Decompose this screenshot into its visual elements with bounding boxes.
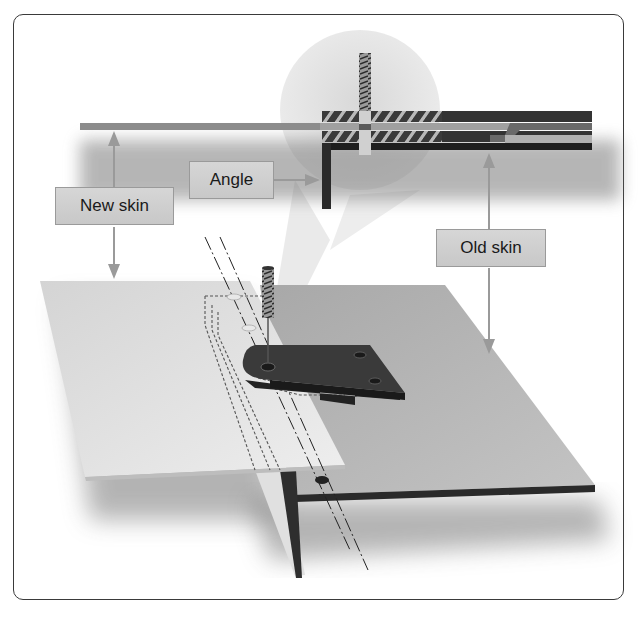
cross-section-angle-leg [322, 143, 331, 209]
rivet-mid [359, 124, 371, 130]
cross-section-new-skin-inner [320, 123, 540, 130]
label-old-skin: Old skin [436, 229, 546, 267]
rivet-hole [227, 294, 241, 300]
drill-bit-top [262, 266, 274, 270]
drill-bit [262, 268, 274, 318]
diagram-artwork [0, 0, 638, 632]
cross-section-rivet [359, 111, 371, 155]
old-skin-shadow [250, 500, 610, 560]
rivet-hole [315, 476, 329, 484]
cross-section-drill-bit [359, 53, 371, 111]
hatched-top [322, 111, 442, 122]
label-angle: Angle [189, 161, 274, 199]
label-new-skin: New skin [55, 187, 174, 225]
cross-section-new-skin [80, 123, 320, 130]
hatched-bottom [322, 131, 442, 142]
old-skin-mid [505, 135, 592, 143]
rivet-hole [242, 325, 256, 331]
